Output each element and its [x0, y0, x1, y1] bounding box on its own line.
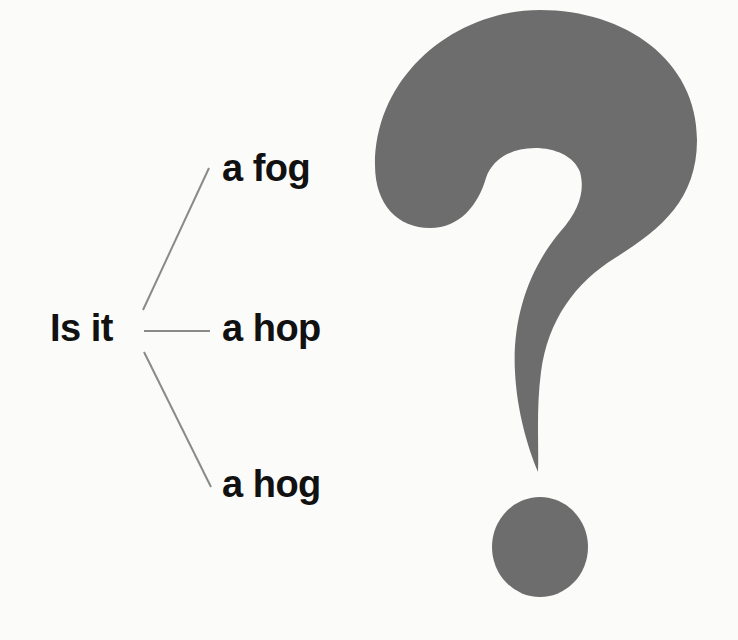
question-mark-dot — [492, 497, 588, 597]
diagram-canvas: Is it a fog a hop a hog — [0, 0, 738, 640]
connector-line-hog — [144, 352, 211, 487]
root-label: Is it — [50, 309, 113, 347]
connector-line-fog — [143, 168, 209, 310]
branch-label-hop: a hop — [222, 309, 321, 347]
question-mark-hook — [375, 10, 697, 472]
branch-label-hog: a hog — [222, 465, 321, 503]
branch-label-fog: a fog — [222, 149, 310, 187]
question-mark-icon — [375, 10, 697, 597]
